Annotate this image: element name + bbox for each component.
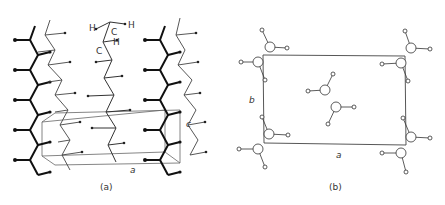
atom-label-c2: C	[96, 46, 102, 56]
panel-b: b a	[237, 28, 432, 192]
unit-cell-b	[263, 55, 406, 145]
caption-b: (b)	[329, 182, 342, 192]
atom-label-c1: C	[111, 27, 117, 37]
panel-a: H C H C H a c	[13, 18, 207, 192]
axis-label-a: a	[130, 165, 136, 175]
chain-right-back	[176, 18, 206, 155]
chain-middle	[88, 22, 130, 162]
axis-label-a-b: a	[336, 150, 342, 160]
axis-label-b: b	[249, 95, 255, 105]
atom-label-h1: H	[89, 23, 96, 33]
atom-label-h3: H	[113, 37, 120, 47]
atom-label-h2: H	[128, 20, 135, 30]
axis-label-c: c	[186, 119, 191, 129]
crystal-structure-figure: H C H C H a c	[0, 0, 445, 205]
chain-left-front	[15, 26, 50, 175]
chain-left-back	[38, 20, 82, 170]
caption-a: (a)	[100, 182, 113, 192]
molecules	[237, 28, 432, 174]
